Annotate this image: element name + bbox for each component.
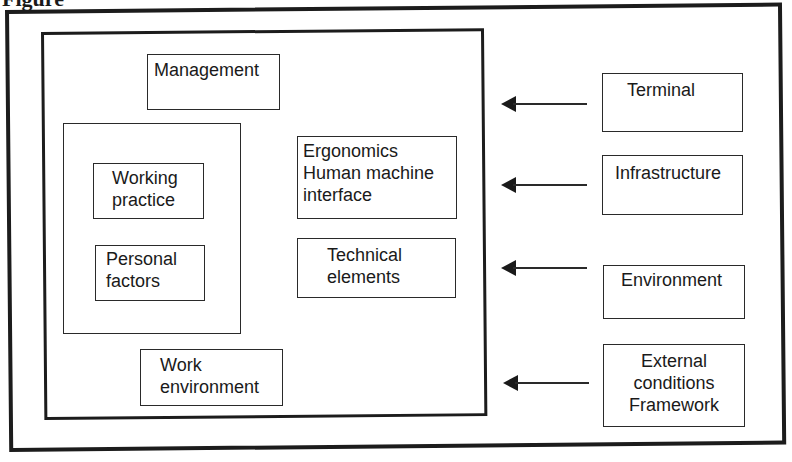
management-label: Management xyxy=(154,59,279,81)
personal-group-box xyxy=(63,123,241,334)
terminal-label: Terminal xyxy=(627,79,742,101)
arrow-left-icon xyxy=(503,375,589,391)
personal-factors-box: Personal factors xyxy=(95,245,205,301)
working-practice-box: Working practice xyxy=(93,163,204,219)
work-environment-label: Work environment xyxy=(160,354,282,398)
work-environment-box: Work environment xyxy=(140,349,283,406)
ergonomics-label: Ergonomics Human machine interface xyxy=(303,140,456,206)
environment-label: Environment xyxy=(621,269,744,291)
personal-factors-label: Personal factors xyxy=(106,248,204,292)
environment-box: Environment xyxy=(603,265,745,319)
technical-elements-box: Technical elements xyxy=(297,238,456,298)
external-conditions-label: External conditions Framework xyxy=(604,350,744,416)
infrastructure-box: Infrastructure xyxy=(602,155,743,215)
arrow-left-icon xyxy=(501,96,587,112)
infrastructure-label: Infrastructure xyxy=(615,162,742,184)
terminal-box: Terminal xyxy=(602,73,743,132)
technical-elements-label: Technical elements xyxy=(327,244,455,288)
arrow-left-icon xyxy=(501,260,587,276)
management-box: Management xyxy=(147,54,280,110)
working-practice-label: Working practice xyxy=(112,167,203,211)
arrow-left-icon xyxy=(501,177,587,193)
ergonomics-box: Ergonomics Human machine interface xyxy=(297,136,457,219)
external-conditions-box: External conditions Framework xyxy=(603,344,745,427)
